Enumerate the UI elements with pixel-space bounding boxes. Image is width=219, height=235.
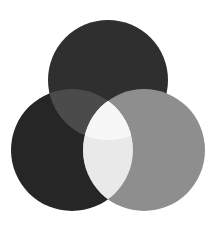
venn-diagram — [0, 0, 219, 235]
